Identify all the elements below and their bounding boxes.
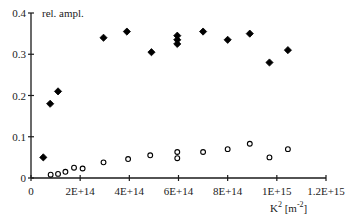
data-point-filled-diamond (54, 88, 61, 95)
data-point-filled-diamond (266, 59, 273, 66)
series-open-circles (48, 141, 290, 177)
x-tick-label: 8E+14 (213, 185, 243, 197)
data-point-open-circle (247, 141, 252, 146)
y-tick-label: 0.2 (12, 90, 26, 102)
data-point-filled-diamond (224, 36, 231, 43)
y-tick-label: 0.1 (12, 131, 26, 143)
data-point-filled-diamond (123, 28, 130, 35)
data-point-filled-diamond (100, 34, 107, 41)
data-point-open-circle (63, 169, 68, 174)
x-tick-label: 4E+14 (115, 185, 145, 197)
scatter-chart: 00.10.20.30.4 02E+144E+146E+148E+141E+15… (0, 0, 358, 222)
y-tick-label: 0 (21, 172, 27, 184)
data-point-open-circle (72, 165, 77, 170)
data-point-open-circle (267, 155, 272, 160)
data-point-filled-diamond (246, 30, 253, 37)
x-tick-label: 1.2E+15 (307, 185, 345, 197)
x-tick-label: 0 (28, 185, 34, 197)
data-point-filled-diamond (284, 47, 291, 54)
data-point-filled-diamond (148, 49, 155, 56)
data-point-filled-diamond (47, 100, 54, 107)
y-tick-label: 0.4 (12, 7, 26, 19)
data-point-open-circle (101, 160, 106, 165)
x-tick-label: 6E+14 (164, 185, 194, 197)
data-point-open-circle (48, 172, 53, 177)
data-point-open-circle (80, 166, 85, 171)
data-point-open-circle (285, 147, 290, 152)
data-point-open-circle (175, 156, 180, 161)
data-point-open-circle (175, 150, 180, 155)
y-axis-title: rel. ampl. (42, 7, 84, 19)
x-tick-label: 2E+14 (65, 185, 95, 197)
x-tick-label: 1E+15 (262, 185, 292, 197)
x-axis: 02E+144E+146E+148E+141E+151.2E+15 (28, 175, 345, 197)
y-tick-label: 0.3 (12, 48, 26, 60)
data-point-open-circle (126, 157, 131, 162)
data-point-open-circle (225, 147, 230, 152)
data-point-open-circle (56, 171, 61, 176)
series-filled-diamonds (40, 28, 292, 161)
y-axis: 00.10.20.30.4 (12, 7, 34, 184)
data-point-filled-diamond (199, 28, 206, 35)
data-point-filled-diamond (40, 154, 47, 161)
data-point-open-circle (201, 150, 206, 155)
x-axis-title: K2 [m-2] (270, 200, 307, 214)
data-point-open-circle (148, 153, 153, 158)
